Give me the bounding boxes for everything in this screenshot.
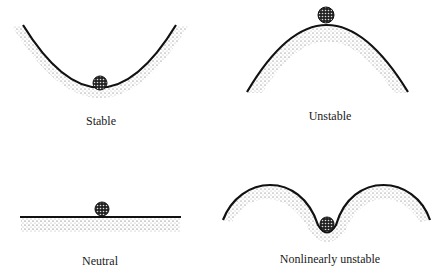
unstable-label: Unstable (309, 109, 352, 124)
stable-panel (12, 25, 188, 98)
stable-ball (93, 76, 107, 90)
stability-diagram (0, 0, 440, 276)
nonlinear-ball (320, 217, 334, 231)
neutral-ball (95, 202, 109, 216)
nonlinear-panel (223, 185, 430, 242)
stable-label: Stable (86, 114, 116, 129)
unstable-ball (318, 7, 334, 23)
nonlinear-label: Nonlinearly unstable (280, 252, 380, 267)
neutral-ground-shading (21, 217, 180, 232)
neutral-label: Neutral (82, 254, 118, 269)
neutral-panel (20, 202, 181, 232)
unstable-panel (247, 7, 408, 93)
